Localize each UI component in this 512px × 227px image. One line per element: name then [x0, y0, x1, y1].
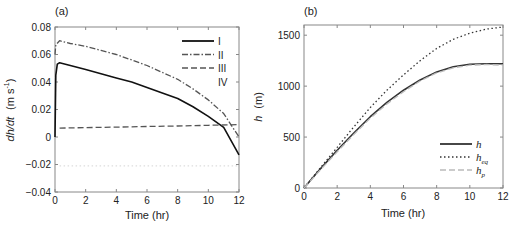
- x-tick-label: 10: [203, 195, 215, 206]
- y-tick-label: 0.02: [32, 104, 52, 115]
- x-tick-label: 2: [83, 195, 89, 206]
- x-tick-label: 12: [497, 191, 509, 202]
- y-ticks-a: −0.04−0.0200.020.040.060.08: [26, 22, 239, 198]
- legend-a: IIIIIIIV: [182, 36, 228, 88]
- series-line-heq: [304, 27, 503, 188]
- plot-area-b: [304, 25, 503, 188]
- x-tick-label: 6: [144, 195, 150, 206]
- panel-label-b: (b): [304, 5, 317, 17]
- y-axis-label-a: dh/dt (m s-1): [3, 79, 16, 142]
- x-tick-label: 6: [401, 191, 407, 202]
- panel-label-a: (a): [55, 5, 68, 17]
- series-line-iii: [60, 125, 239, 129]
- chart-panel-b: (b) 050010001500 024681012 hheqhp Time (…: [252, 5, 509, 219]
- y-axis-label-b: h (m): [252, 92, 264, 122]
- x-ticks-a: 024681012: [52, 27, 245, 206]
- y-var-a: dh/dt: [4, 116, 16, 141]
- x-tick-label: 0: [301, 191, 307, 202]
- figure: (a) −0.04−0.0200.020.040.060.08 02468101…: [0, 0, 512, 227]
- y-tick-label: 0.04: [32, 77, 52, 88]
- chart-panel-a: (a) −0.04−0.0200.020.040.060.08 02468101…: [3, 5, 245, 221]
- series-line-hp: [304, 65, 503, 189]
- y-tick-label: −0.02: [26, 159, 52, 170]
- legend-label: III: [218, 63, 226, 74]
- x-tick-label: 12: [233, 195, 245, 206]
- legend-label: II: [218, 50, 224, 61]
- y-tick-label: 1000: [278, 81, 301, 92]
- y-ticks-b: 050010001500: [278, 30, 503, 194]
- legend-label: h: [476, 138, 482, 150]
- y-tick-label: 0: [45, 132, 51, 143]
- series-line-h: [304, 64, 503, 188]
- plot-area-a: [55, 27, 239, 192]
- x-tick-label: 8: [175, 195, 181, 206]
- y-tick-label: 500: [283, 132, 300, 143]
- x-tick-label: 4: [114, 195, 120, 206]
- y-tick-label: −0.04: [26, 187, 52, 198]
- x-tick-label: 2: [334, 191, 340, 202]
- series-b: [304, 27, 503, 188]
- y-tick-label: 1500: [278, 30, 301, 41]
- legend-label: I: [218, 36, 221, 47]
- y-var-b: h: [252, 116, 264, 122]
- y-unit-a: (m s: [4, 88, 16, 110]
- x-axis-label-b: Time (hr): [381, 207, 425, 219]
- y-unit-b: (m): [252, 92, 264, 109]
- legend-label: hp: [476, 164, 486, 179]
- legend-b: hheqhp: [440, 138, 489, 179]
- y-tick-label: 0.08: [32, 22, 52, 33]
- series-line-ii: [55, 41, 239, 137]
- series-a: [55, 41, 239, 166]
- x-axis-label-a: Time (hr): [125, 209, 169, 221]
- y-tick-label: 0: [294, 183, 300, 194]
- y-close-a: ): [4, 79, 16, 83]
- legend-label: IV: [218, 77, 228, 88]
- series-line-i: [55, 63, 239, 155]
- y-tick-label: 0.06: [32, 49, 52, 60]
- x-tick-label: 4: [368, 191, 374, 202]
- x-tick-label: 10: [464, 191, 476, 202]
- x-tick-label: 0: [52, 195, 58, 206]
- x-tick-label: 8: [434, 191, 440, 202]
